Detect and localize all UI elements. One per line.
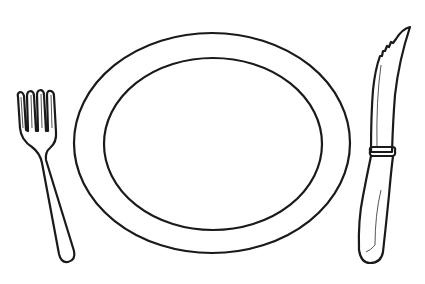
knife-icon [359,27,410,263]
plate-icon [74,33,350,253]
fork-icon [18,90,75,262]
